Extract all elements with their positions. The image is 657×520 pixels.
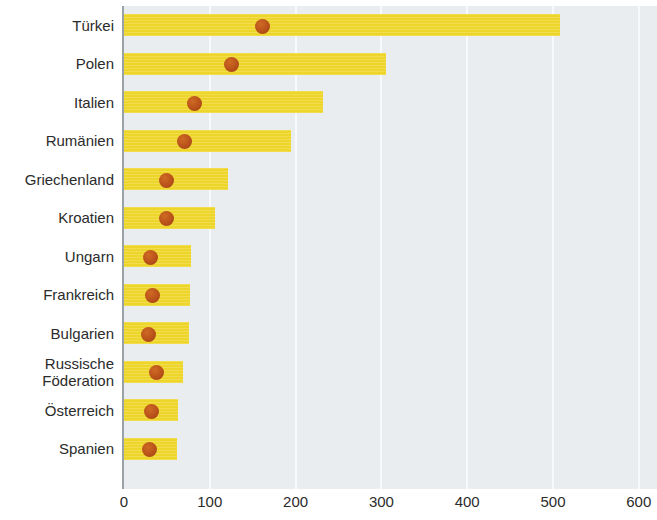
x-tick-label: 600 (626, 493, 651, 510)
bar (124, 168, 228, 190)
category-label: Polen (0, 55, 114, 72)
category-label: Rumänien (0, 132, 114, 149)
x-tick-label: 100 (197, 493, 222, 510)
category-label: Ungarn (0, 248, 114, 265)
bar (124, 130, 291, 152)
value-marker-dot (145, 288, 160, 303)
category-label: Österreich (0, 402, 114, 419)
bar (124, 53, 386, 75)
value-marker-dot (224, 57, 239, 72)
category-label: Griechenland (0, 171, 114, 188)
category-label: Spanien (0, 440, 114, 457)
category-label: Russische Föderation (0, 355, 114, 389)
value-marker-dot (143, 250, 158, 265)
x-tick-label: 400 (455, 493, 480, 510)
bar (124, 322, 189, 344)
x-axis: 0100200300400500600 (0, 489, 657, 520)
x-tick-label: 0 (120, 493, 128, 510)
value-marker-dot (149, 365, 164, 380)
value-marker-dot (144, 404, 159, 419)
category-label: Italien (0, 94, 114, 111)
bar (124, 91, 323, 113)
category-label: Frankreich (0, 286, 114, 303)
bar-chart: TürkeiPolenItalienRumänienGriechenlandKr… (0, 0, 657, 520)
value-marker-dot (141, 327, 156, 342)
x-tick-label: 300 (369, 493, 394, 510)
category-label: Bulgarien (0, 325, 114, 342)
value-marker-dot (159, 173, 174, 188)
value-marker-dot (255, 19, 270, 34)
value-marker-dot (177, 134, 192, 149)
x-tick-label: 500 (540, 493, 565, 510)
value-marker-dot (187, 96, 202, 111)
category-label: Türkei (0, 17, 114, 34)
category-label: Kroatien (0, 209, 114, 226)
bar (124, 14, 560, 36)
x-tick-label: 200 (283, 493, 308, 510)
